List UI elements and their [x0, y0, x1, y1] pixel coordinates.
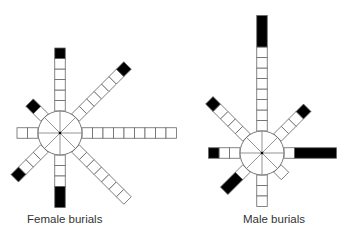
- arm-sw: [220, 165, 250, 195]
- count-box: [257, 196, 268, 207]
- marked-box: [257, 16, 268, 48]
- count-box: [82, 128, 93, 139]
- female-burials-label: Female burials: [27, 213, 102, 225]
- count-box: [135, 128, 146, 139]
- count-box: [103, 128, 114, 139]
- arm-w: [209, 148, 241, 159]
- count-box: [55, 155, 66, 166]
- count-box: [257, 79, 268, 90]
- count-box: [28, 128, 39, 139]
- count-box: [257, 58, 268, 69]
- count-box: [124, 128, 135, 139]
- count-box: [55, 176, 66, 187]
- count-box: [257, 100, 268, 111]
- count-box: [145, 128, 156, 139]
- arm-e: [82, 128, 177, 139]
- count-box: [166, 128, 177, 139]
- count-box: [55, 90, 66, 101]
- count-box: [114, 128, 125, 139]
- marked-box: [55, 48, 66, 59]
- count-box: [284, 148, 295, 159]
- marked-box: [55, 187, 66, 208]
- female-rose-chart: [11, 48, 176, 208]
- count-box: [55, 101, 66, 112]
- arm-n: [257, 16, 268, 132]
- marked-box: [295, 148, 337, 159]
- male-rose-chart: [206, 16, 337, 207]
- arm-s: [55, 155, 66, 208]
- count-box: [257, 68, 268, 79]
- arm-nw: [206, 97, 251, 142]
- burial-orientation-diagram: [0, 0, 346, 235]
- arm-ne: [274, 104, 311, 141]
- count-box: [55, 69, 66, 80]
- arm-w: [17, 128, 38, 139]
- count-box: [257, 110, 268, 121]
- arm-sw: [11, 145, 48, 182]
- count-box: [257, 186, 268, 197]
- count-box: [257, 89, 268, 100]
- count-box: [55, 80, 66, 91]
- count-box: [257, 47, 268, 58]
- arm-s: [257, 175, 268, 207]
- count-box: [17, 128, 28, 139]
- center-dot: [59, 132, 62, 135]
- arm-n: [55, 48, 66, 111]
- arm-ne: [72, 62, 131, 121]
- count-box: [257, 175, 268, 186]
- count-box: [230, 148, 241, 159]
- count-box: [219, 148, 230, 159]
- arm-e: [284, 148, 337, 159]
- arm-se: [72, 145, 131, 204]
- male-burials-label: Male burials: [243, 213, 305, 225]
- count-box: [93, 128, 104, 139]
- count-box: [55, 59, 66, 70]
- count-box: [55, 166, 66, 177]
- count-box: [257, 121, 268, 132]
- count-box: [156, 128, 167, 139]
- marked-box: [209, 148, 220, 159]
- center-dot: [261, 152, 264, 155]
